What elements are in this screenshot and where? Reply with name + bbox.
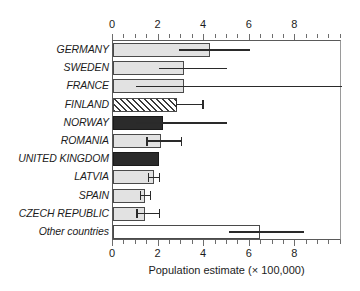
axis-tick-minor bbox=[272, 34, 273, 38]
error-bar-cap bbox=[150, 191, 151, 200]
axis-tick-minor bbox=[237, 34, 238, 38]
axis-tick-minor bbox=[123, 240, 124, 244]
axis-tick-label: 0 bbox=[109, 247, 115, 259]
category-label: ROMANIA bbox=[1, 134, 109, 146]
axis-tick-minor bbox=[192, 240, 193, 244]
error-bar-line bbox=[177, 104, 203, 105]
axis-tick-major bbox=[158, 240, 159, 246]
category-label: UNITED KINGDOM bbox=[1, 152, 109, 164]
axis-tick-major bbox=[203, 240, 204, 246]
axis-tick-minor bbox=[317, 34, 318, 38]
category-label: CZECH REPUBLIC bbox=[1, 207, 109, 219]
bar bbox=[113, 152, 159, 166]
axis-tick-minor bbox=[135, 34, 136, 38]
bar-chart-figure: 02468 GERMANYSWEDENFRANCEFINLANDNORWAYRO… bbox=[0, 0, 360, 291]
axis-tick-minor bbox=[169, 34, 170, 38]
axis-tick-label: 8 bbox=[291, 18, 297, 30]
axis-tick-major bbox=[249, 240, 250, 246]
axis-tick-minor bbox=[180, 240, 181, 244]
error-bar-cap bbox=[136, 209, 137, 218]
error-bar-cap bbox=[148, 173, 149, 182]
axis-tick-minor bbox=[192, 34, 193, 38]
axis-tick-minor bbox=[283, 240, 284, 244]
error-bar-cap bbox=[140, 191, 141, 200]
axis-tick-minor bbox=[328, 34, 329, 38]
axis-tick-label: 2 bbox=[155, 247, 161, 259]
axis-tick-label: 8 bbox=[291, 247, 297, 259]
axis-tick-minor bbox=[215, 34, 216, 38]
error-bar-cap bbox=[159, 173, 160, 182]
axis-tick-label: 0 bbox=[109, 18, 115, 30]
axis-tick-major bbox=[112, 240, 113, 246]
axis-tick-minor bbox=[272, 240, 273, 244]
error-bar-line bbox=[136, 86, 342, 87]
axis-tick-minor bbox=[226, 34, 227, 38]
axis-tick-minor bbox=[146, 34, 147, 38]
error-bar-cap bbox=[176, 100, 177, 109]
error-bar-cap bbox=[146, 137, 147, 146]
error-bar-cap bbox=[159, 209, 160, 218]
bottom-axis-ticks bbox=[112, 240, 341, 246]
error-bar-line bbox=[147, 140, 181, 141]
axis-tick-label: 6 bbox=[246, 247, 252, 259]
axis-tick-minor bbox=[123, 34, 124, 38]
error-bar-line bbox=[179, 49, 250, 50]
axis-tick-label: 2 bbox=[155, 18, 161, 30]
error-bar-line bbox=[136, 122, 227, 123]
axis-tick-minor bbox=[306, 34, 307, 38]
axis-tick-label: 6 bbox=[246, 18, 252, 30]
axis-tick-minor bbox=[306, 240, 307, 244]
x-axis-title: Population estimate (× 100,000) bbox=[112, 264, 341, 276]
axis-tick-minor bbox=[340, 34, 341, 38]
axis-tick-minor bbox=[260, 34, 261, 38]
category-label: NORWAY bbox=[1, 116, 109, 128]
axis-tick-label: 4 bbox=[200, 247, 206, 259]
category-axis-labels: GERMANYSWEDENFRANCEFINLANDNORWAYROMANIAU… bbox=[0, 0, 109, 291]
error-bar-line bbox=[137, 213, 160, 214]
error-bar-cap bbox=[181, 137, 182, 146]
axis-tick-minor bbox=[169, 240, 170, 244]
axis-tick-minor bbox=[340, 240, 341, 244]
category-label: FINLAND bbox=[1, 98, 109, 110]
axis-tick-major bbox=[294, 240, 295, 246]
axis-tick-minor bbox=[317, 240, 318, 244]
category-label: SPAIN bbox=[1, 189, 109, 201]
error-bar-line bbox=[159, 68, 227, 69]
axis-tick-minor bbox=[283, 34, 284, 38]
category-label: FRANCE bbox=[1, 79, 109, 91]
axis-tick-minor bbox=[260, 240, 261, 244]
category-label: LATVIA bbox=[1, 170, 109, 182]
axis-tick-minor bbox=[226, 240, 227, 244]
axis-tick-minor bbox=[328, 240, 329, 244]
top-axis-tick-labels: 02468 bbox=[112, 18, 341, 32]
axis-tick-minor bbox=[237, 240, 238, 244]
axis-tick-minor bbox=[180, 34, 181, 38]
axis-tick-label: 4 bbox=[200, 18, 206, 30]
category-label: SWEDEN bbox=[1, 61, 109, 73]
error-bar-line bbox=[229, 231, 304, 232]
error-bar-cap bbox=[202, 100, 203, 109]
error-bar-line bbox=[148, 177, 159, 178]
category-label: GERMANY bbox=[1, 43, 109, 55]
axis-tick-minor bbox=[215, 240, 216, 244]
category-label: Other countries bbox=[1, 225, 109, 237]
plot-area bbox=[112, 40, 341, 240]
bar bbox=[113, 98, 177, 112]
bottom-axis-tick-labels: 02468 bbox=[112, 247, 341, 261]
axis-tick-minor bbox=[135, 240, 136, 244]
axis-tick-minor bbox=[146, 240, 147, 244]
